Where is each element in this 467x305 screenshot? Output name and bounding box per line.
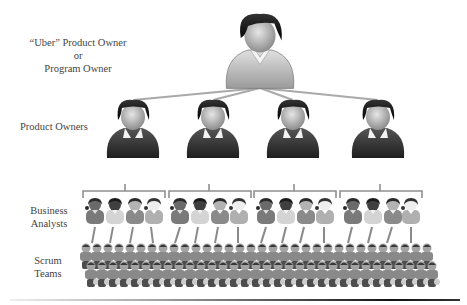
ba-group-brackets: [83, 184, 422, 198]
product-owner-icon: [187, 100, 239, 158]
product-owner-icon: [267, 100, 319, 158]
product-owner-icon: [107, 100, 159, 158]
hierarchy-diagram: [0, 0, 467, 305]
bottom-divider: [10, 299, 460, 301]
business-analyst-group: [256, 198, 334, 224]
business-analyst-group: [85, 198, 163, 224]
scrum-teams-crowd: [80, 244, 440, 288]
ba-to-scrum-connectors: [92, 227, 411, 243]
product-owner-icon: [352, 100, 404, 158]
uber-to-po-connectors: [133, 88, 378, 100]
business-analyst-group: [170, 198, 248, 224]
business-analyst-group: [343, 198, 420, 224]
uber-product-owner-icon: [226, 14, 294, 89]
